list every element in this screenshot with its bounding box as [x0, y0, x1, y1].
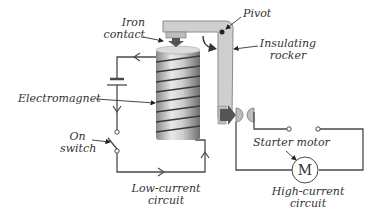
electromagnet-coil [156, 46, 200, 140]
starter-relay-diagram: Iron contact Pivot Insulating rocker Ele… [0, 0, 382, 215]
iron-contact-down-arrow [168, 38, 184, 47]
high-current-contacts [236, 108, 254, 122]
on-switch [108, 130, 119, 153]
iron-contact [166, 32, 186, 38]
rocker-rotation-arrow [208, 43, 217, 52]
label-pivot: Pivot [243, 8, 271, 20]
label-on-switch: On switch [60, 131, 95, 155]
label-iron-contact: Iron contact [100, 17, 145, 41]
label-high-current-circuit: High-current circuit [268, 186, 348, 210]
label-starter-motor: Starter motor [253, 137, 330, 149]
pivot-point [220, 30, 225, 35]
motor-symbol: M [292, 163, 318, 177]
high-current-terminals [287, 127, 320, 131]
label-low-current-circuit: Low-current circuit [126, 183, 206, 207]
label-insulating-rocker: Insulating rocker [258, 38, 318, 62]
moving-contact [236, 108, 243, 122]
label-electromagnet: Electromagnet [18, 93, 101, 105]
fixed-contact [247, 108, 254, 122]
